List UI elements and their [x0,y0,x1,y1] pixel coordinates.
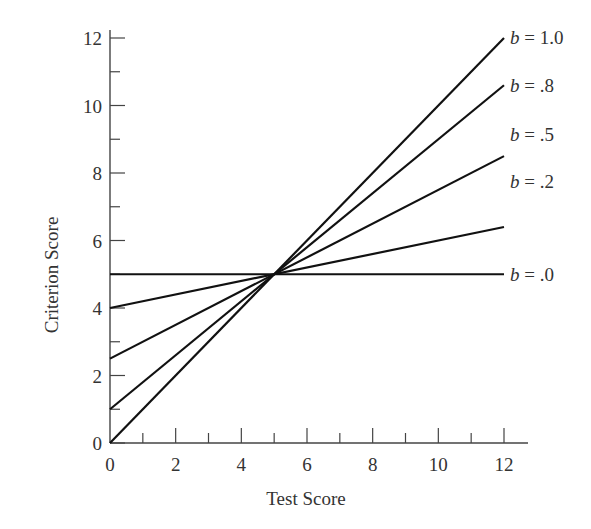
y-tick-label: 0 [93,433,103,454]
y-tick-label: 10 [83,96,102,117]
x-axis-title: Test Score [266,488,345,509]
series-lines [110,38,504,443]
x-tick-label: 2 [171,454,181,475]
y-tick-label: 2 [93,366,103,387]
y-tick-label: 4 [93,298,103,319]
series-line [110,156,504,359]
series-label-b-.0: b = .0 [510,264,554,285]
x-tick-label: 6 [302,454,312,475]
x-tick-label: 12 [495,454,514,475]
x-ticks: 024681012 [105,428,513,475]
series-label-b-1.0: b = 1.0 [510,27,563,48]
x-tick-label: 4 [237,454,247,475]
y-axis-title: Criterion Score [41,217,62,334]
x-tick-label: 10 [429,454,448,475]
y-ticks: 024681012 [83,28,125,454]
x-tick-label: 0 [105,454,115,475]
x-tick-label: 8 [368,454,378,475]
y-tick-label: 12 [83,28,102,49]
y-tick-label: 6 [93,231,103,252]
series-label-b-.5: b = .5 [510,124,554,145]
series-label-b-.8: b = .8 [510,75,554,96]
chart-canvas: 024681012 024681012 Test Score Criterion… [0,0,591,529]
series-line [110,38,504,443]
y-tick-label: 8 [93,163,103,184]
series-label-b-.2: b = .2 [510,171,554,192]
series-line [110,85,504,409]
